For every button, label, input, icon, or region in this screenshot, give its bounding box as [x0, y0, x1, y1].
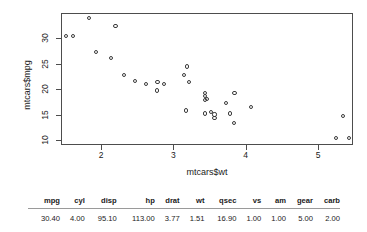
y-axis-tick — [56, 140, 61, 141]
table-cell: 1.00 — [236, 209, 261, 224]
y-axis-tick — [56, 115, 61, 116]
table-column-header: wt — [180, 196, 205, 209]
data-point — [64, 34, 68, 38]
data-point — [232, 91, 236, 95]
table-cell: 95.10 — [85, 209, 117, 224]
x-axis-tick-label: 5 — [308, 149, 328, 161]
data-point — [113, 24, 117, 28]
summary-data-table: mpgcyldisphpdratwtqsecvsamgearcarb 30.40… — [28, 196, 340, 223]
y-axis-tick — [56, 89, 61, 90]
table-column-header: hp — [117, 196, 155, 209]
data-point — [162, 82, 166, 86]
table-column-header: mpg — [28, 196, 60, 209]
table-cell: 1.00 — [261, 209, 286, 224]
data-point — [228, 111, 232, 115]
table-cell: 2.00 — [313, 209, 340, 224]
x-axis-label: mtcars$wt — [186, 167, 227, 177]
table-column-header: vs — [236, 196, 261, 209]
x-axis-tick-label: 2 — [91, 149, 111, 161]
data-point — [182, 73, 186, 77]
x-axis-tick-label: 3 — [163, 149, 183, 161]
data-point — [71, 34, 75, 38]
data-point — [109, 56, 113, 60]
table-cell: 113.00 — [117, 209, 155, 224]
scatter-plot-figure: mtcars$mpg mtcars$wt 10152025302345 — [0, 0, 367, 182]
data-point — [224, 101, 228, 105]
table-cell: 30.40 — [28, 209, 60, 224]
data-point — [94, 50, 98, 54]
data-point — [155, 88, 159, 92]
y-axis-label: mtcars$mpg — [22, 60, 32, 110]
data-point — [133, 79, 137, 83]
data-point — [122, 73, 126, 77]
data-points-layer — [61, 13, 353, 145]
table-cell: 3.77 — [155, 209, 180, 224]
data-point — [87, 16, 91, 20]
table-row: 30.404.0095.10113.003.771.5116.901.001.0… — [28, 209, 340, 224]
y-axis-tick-label: 15 — [39, 104, 51, 126]
table-column-header: qsec — [204, 196, 236, 209]
y-axis-tick-label: 25 — [39, 53, 51, 75]
table-cell: 5.00 — [286, 209, 313, 224]
table-column-header: cyl — [60, 196, 85, 209]
table-column-header: gear — [286, 196, 313, 209]
table-header-row: mpgcyldisphpdratwtqsecvsamgearcarb — [28, 196, 340, 209]
table-cell: 1.51 — [180, 209, 205, 224]
table-column-header: carb — [313, 196, 340, 209]
y-axis-tick-label: 20 — [39, 78, 51, 100]
y-axis-tick — [56, 38, 61, 39]
data-point — [212, 112, 216, 116]
data-point — [184, 108, 188, 112]
y-axis-tick — [56, 64, 61, 65]
table-column-header: am — [261, 196, 286, 209]
data-point — [212, 116, 216, 120]
data-point — [334, 136, 338, 140]
table-column-header: drat — [155, 196, 180, 209]
data-point — [155, 80, 159, 84]
data-point — [203, 98, 207, 102]
y-axis-tick-label: 10 — [39, 129, 51, 151]
y-axis-tick-label: 30 — [39, 27, 51, 49]
data-point — [341, 114, 345, 118]
data-point — [249, 105, 253, 109]
data-point — [347, 136, 351, 140]
table-column-header: disp — [85, 196, 117, 209]
table-cell: 4.00 — [60, 209, 85, 224]
table-cell: 16.90 — [204, 209, 236, 224]
data-point — [185, 64, 189, 68]
data-point — [144, 82, 148, 86]
x-axis-tick-label: 4 — [236, 149, 256, 161]
data-point — [203, 111, 207, 115]
data-point — [187, 80, 191, 84]
data-point — [232, 121, 236, 125]
